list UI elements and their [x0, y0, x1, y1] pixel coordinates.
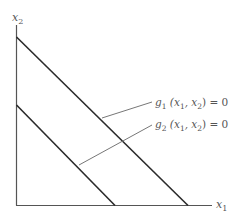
- constraint-diagram: x2 x1 g1 (x1, x2) = 0 g2 (x1, x2) = 0: [0, 0, 237, 217]
- label-g1: g1 (x1, x2) = 0: [155, 96, 228, 111]
- leader-line-g1: [102, 102, 152, 118]
- constraint-line-g1: [17, 37, 189, 206]
- y-axis-label: x2: [12, 11, 23, 26]
- label-g2: g2 (x1, x2) = 0: [155, 118, 228, 133]
- x-axis-label: x1: [216, 198, 227, 213]
